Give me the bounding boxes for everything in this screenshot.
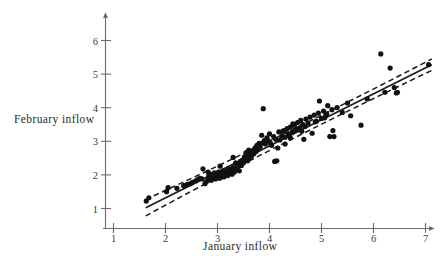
data-point — [331, 134, 336, 139]
data-point — [259, 133, 264, 138]
scatter-plot-figure: February inflow January inflow 123456712… — [0, 0, 443, 267]
data-point — [254, 144, 259, 149]
data-point — [237, 168, 242, 173]
data-point — [296, 127, 301, 132]
data-point — [345, 100, 350, 105]
data-point — [231, 155, 236, 160]
data-point — [174, 186, 179, 191]
data-point — [302, 124, 307, 129]
data-point — [199, 176, 204, 181]
axes — [103, 13, 434, 229]
data-point — [218, 164, 223, 169]
data-point — [221, 168, 226, 173]
x-tick-label-1: 1 — [111, 233, 116, 244]
data-point — [206, 170, 211, 175]
data-point — [382, 90, 387, 95]
y-tick-label-3: 3 — [86, 136, 98, 147]
data-point — [288, 135, 293, 140]
data-point — [275, 145, 280, 150]
y-axis-label: February inflow — [14, 113, 94, 125]
data-point — [426, 62, 431, 67]
data-point — [378, 51, 383, 56]
data-point — [233, 160, 238, 165]
data-point — [358, 123, 363, 128]
data-point — [335, 105, 340, 110]
data-point — [283, 135, 288, 140]
data-point — [330, 128, 335, 133]
data-point — [166, 185, 171, 190]
x-tick-label-4: 4 — [267, 233, 272, 244]
data-point — [329, 107, 334, 112]
data-point — [274, 158, 279, 163]
data-point — [316, 110, 321, 115]
data-point — [250, 151, 255, 156]
y-tick-label-2: 2 — [86, 169, 98, 180]
x-tick-label-3: 3 — [215, 233, 220, 244]
data-point — [146, 195, 151, 200]
data-point — [395, 90, 400, 95]
data-point — [301, 137, 306, 142]
data-point — [290, 121, 295, 126]
x-tick-label-7: 7 — [423, 233, 428, 244]
x-tick-label-5: 5 — [319, 233, 324, 244]
data-point — [273, 137, 278, 142]
data-point — [348, 113, 353, 118]
data-point — [310, 131, 315, 136]
data-point — [340, 110, 345, 115]
y-tick-label-4: 4 — [86, 102, 98, 113]
data-point — [226, 166, 231, 171]
data-point — [246, 147, 251, 152]
x-tick-label-2: 2 — [163, 233, 168, 244]
data-point — [200, 166, 205, 171]
data-point — [280, 129, 285, 134]
plot-canvas — [0, 0, 443, 267]
lower-confidence-band — [146, 70, 432, 215]
data-point — [265, 137, 270, 142]
y-tick-label-1: 1 — [86, 203, 98, 214]
data-point — [325, 103, 330, 108]
data-point — [261, 106, 266, 111]
data-point — [392, 85, 397, 90]
y-tick-label-5: 5 — [86, 69, 98, 80]
data-point — [324, 111, 329, 116]
data-point — [388, 65, 393, 70]
data-point — [317, 98, 322, 103]
data-point — [365, 96, 370, 101]
data-point — [283, 141, 288, 146]
y-tick-label-6: 6 — [86, 35, 98, 46]
x-tick-label-6: 6 — [371, 233, 376, 244]
data-point — [313, 119, 318, 124]
data-point — [209, 177, 214, 182]
